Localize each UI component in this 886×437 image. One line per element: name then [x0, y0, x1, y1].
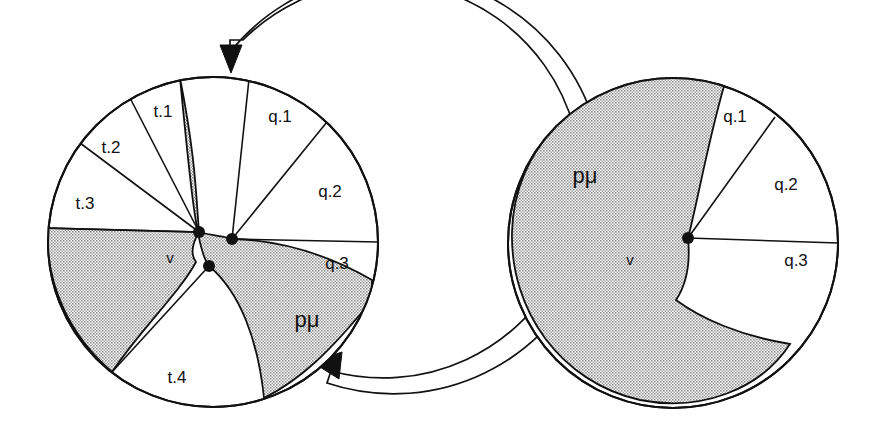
- left-label-t4: t.4: [168, 368, 187, 387]
- right-label-q2: q.2: [774, 175, 798, 194]
- left-label-v: v: [166, 249, 174, 266]
- right-label-pmu: pμ: [573, 163, 598, 188]
- left-label-t2: t.2: [102, 138, 121, 157]
- left-label-q3: q.3: [325, 254, 349, 273]
- left-vertex-left: [193, 226, 205, 238]
- right-label-q3: q.3: [784, 251, 808, 270]
- figure-root: t.1 t.2 t.3 t.4 q.1 q.2 q.3 pμ v pμ q.1 …: [0, 0, 886, 437]
- left-label-q2: q.2: [318, 182, 342, 201]
- left-label-pmu: pμ: [295, 307, 320, 332]
- left-label-t3: t.3: [76, 194, 95, 213]
- left-vertex-right: [226, 233, 238, 245]
- right-vertex-center: [682, 232, 694, 244]
- diagram-canvas: t.1 t.2 t.3 t.4 q.1 q.2 q.3 pμ v pμ q.1 …: [0, 0, 886, 437]
- left-label-q1: q.1: [268, 107, 292, 126]
- right-label-v: v: [626, 251, 634, 268]
- left-label-t1: t.1: [154, 102, 173, 121]
- left-vertex-lower: [203, 260, 215, 272]
- arrow-top-icon: [220, 45, 242, 73]
- right-label-q1: q.1: [723, 107, 747, 126]
- right-disc-diagram: pμ q.1 q.2 q.3 v: [508, 75, 838, 408]
